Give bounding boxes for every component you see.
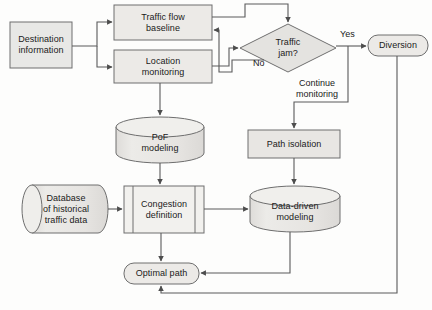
edge-destination-to-location-monitoring [97,46,112,67]
node-pof-modeling [116,117,204,163]
node-congestion-definition [124,186,204,233]
edge-label-no: No [253,58,265,69]
edge-destination-to-traffic-flow-baseline [72,22,112,46]
edge-diversion-to-optimal-path [161,56,397,293]
node-destination-information [10,22,72,68]
node-optimal-path [124,263,199,284]
node-path-isolation [248,130,340,158]
node-database-historical-traffic-data [22,185,108,233]
edge-label-yes: Yes [340,29,355,40]
flowchart-graphics-layer [0,0,432,310]
edge-label-continue-monitoring: Continue monitoring [296,78,338,100]
node-traffic-flow-baseline [114,5,212,40]
node-data-driven-modeling [250,186,340,232]
edge-traffic-flow-baseline-to-decision [212,4,288,22]
flowchart-diagram: Destination information Traffic flow bas… [0,0,432,310]
edge-location-monitoring-to-decision [212,48,238,66]
node-diversion [368,35,428,56]
edge-data-driven-modeling-to-optimal-path [201,232,290,273]
node-location-monitoring [114,50,212,83]
